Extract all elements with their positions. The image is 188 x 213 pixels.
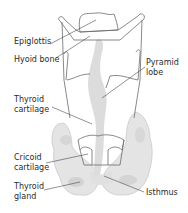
label-epiglottis: Epiglottis xyxy=(14,37,51,47)
label-thyroid-cartilage-line1: Thyroid xyxy=(14,95,44,105)
label-cricoid-cartilage-line2: cartilage xyxy=(14,163,49,173)
label-isthmus: Isthmus xyxy=(146,188,178,198)
pyramid-lobe-shape xyxy=(88,39,107,175)
label-pyramid-lobe-line1: Pyramid xyxy=(146,58,179,68)
label-thyroid-gland-line1: Thyroid xyxy=(14,182,44,192)
leader-thyroid-cartilage xyxy=(52,107,92,124)
label-thyroid-cartilage-line2: cartilage xyxy=(14,105,49,115)
label-hyoid-bone: Hyoid bone xyxy=(14,55,59,65)
label-pyramid-lobe-line2: lobe xyxy=(146,68,163,78)
thyroid-anatomy-diagram: Epiglottis Hyoid bone Pyramid lobe Thyro… xyxy=(0,0,188,213)
label-thyroid-gland-line2: gland xyxy=(14,192,36,202)
leader-pyramid-lobe xyxy=(102,67,145,98)
label-cricoid-cartilage-line1: Cricoid xyxy=(14,153,42,163)
